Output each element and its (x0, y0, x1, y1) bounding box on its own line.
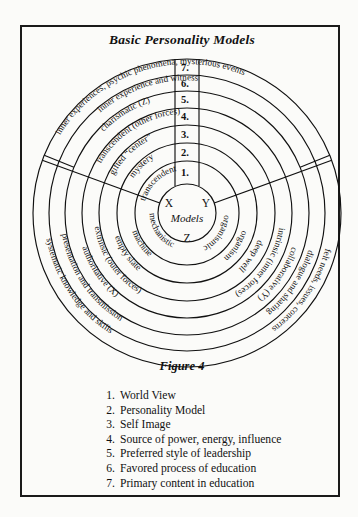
ring-7-right-label: felt needs, issues, concerns (270, 248, 333, 335)
legend-item-number: 1. (100, 389, 115, 404)
legend-item: 4.Source of power, energy, influence (100, 433, 330, 448)
core-label-models: Models (170, 212, 203, 224)
legend-item-number: 7. (100, 477, 115, 492)
legend-item-label: Self Image (120, 418, 171, 433)
concentric-wheel-diagram: mechanisticorganismictranscendentmachine… (22, 27, 342, 377)
figure-page: Basic Personality Models mechanisticorga… (0, 0, 358, 517)
ring-4-bottom-label: transcendent (other forces) (94, 106, 181, 165)
figure-caption: Figure 4 (22, 359, 342, 374)
legend-list: 1.World View2.Personality Model3.Self Im… (100, 389, 330, 491)
legend-item-number: 6. (100, 462, 115, 477)
ring-2-left-label: machine (130, 229, 154, 259)
core-letter-x: X (165, 197, 174, 209)
legend-item: 1.World View (100, 389, 330, 404)
ring-5-number: 5. (181, 94, 189, 105)
ring-4-number: 4. (181, 111, 189, 122)
legend-item: 5.Preferred style of leadership (100, 447, 330, 462)
wheel-svg: mechanisticorganismictranscendentmachine… (22, 27, 342, 377)
legend-item: 2.Personality Model (100, 404, 330, 419)
legend-item-label: Preferred style of leadership (120, 447, 251, 462)
legend-item-label: Primary content in education (120, 477, 254, 492)
legend-item-label: Source of power, energy, influence (120, 433, 281, 448)
ring-3-number: 3. (181, 129, 189, 140)
legend-item-label: Personality Model (120, 404, 205, 419)
legend-item-label: Favored process of education (120, 462, 256, 477)
legend-item: 7.Primary content in education (100, 477, 330, 492)
core-letter-y: Y (202, 197, 211, 209)
outer-sector-tick-2 (300, 155, 330, 167)
ring-1-number: 1. (181, 167, 189, 178)
legend-item-label: World View (120, 389, 176, 404)
legend-item-number: 4. (100, 433, 115, 448)
legend-item-number: 2. (100, 404, 115, 419)
ring-7-number: 7. (181, 62, 189, 73)
legend-item-number: 3. (100, 418, 115, 433)
figure-border-box: Basic Personality Models mechanisticorga… (20, 25, 340, 497)
legend-item: 6.Favored process of education (100, 462, 330, 477)
ring-6-number: 6. (181, 78, 189, 89)
core-letter-z: Z (183, 232, 190, 244)
ring-2-number: 2. (181, 147, 189, 158)
legend-item-number: 5. (100, 447, 115, 462)
legend-item: 3.Self Image (100, 418, 330, 433)
outer-sector-tick-1 (44, 155, 74, 167)
